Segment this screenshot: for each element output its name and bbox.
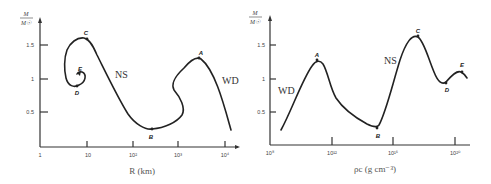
- right-xtick-1e12: 10¹²: [327, 150, 337, 156]
- right-ytick-1: 1: [262, 76, 265, 82]
- figure: M M☉ 1.5 1 0.5 1 10 10² 10³ 10⁴ R (km) A…: [0, 0, 491, 184]
- left-ytick-1: 1: [31, 76, 34, 82]
- left-xtick-10000: 10⁴: [221, 152, 230, 158]
- left-mass-radius-curve: [65, 38, 231, 130]
- right-ytick-1-5: 1.5: [257, 42, 265, 48]
- left-point-c: C: [84, 30, 89, 36]
- left-label-wd: WD: [222, 75, 239, 86]
- right-plot: M M☉ 1.5 1 0.5 10⁸ 10¹² 10¹⁶ 10²⁰ ρc (g …: [249, 10, 470, 174]
- left-ylabel-den: M☉: [20, 20, 32, 26]
- right-label-ns: NS: [384, 55, 397, 66]
- right-xtick-1e20: 10²⁰: [450, 150, 461, 156]
- right-y-arrow-icon: [268, 15, 272, 21]
- right-xtick-1e16: 10¹⁶: [388, 150, 398, 156]
- left-xtick-100: 10²: [129, 152, 137, 158]
- right-ylabel-num: M: [252, 10, 259, 16]
- left-xtick-1000: 10³: [174, 152, 182, 158]
- left-ylabel-num: M: [23, 11, 30, 17]
- right-xtick-1e8: 10⁸: [266, 150, 274, 156]
- right-ylabel-den: M☉: [249, 19, 261, 25]
- right-point-e: E: [460, 62, 465, 68]
- right-mass-density-curve: [281, 36, 467, 130]
- left-label-ns: NS: [115, 69, 128, 80]
- left-ytick-0-5: 0.5: [26, 109, 34, 115]
- left-point-e: E: [78, 66, 83, 72]
- right-point-a: A: [314, 52, 319, 58]
- right-label-wd: WD: [278, 85, 295, 96]
- left-point-a: A: [198, 50, 203, 56]
- left-point-b: B: [149, 134, 154, 140]
- right-point-b: B: [376, 133, 381, 139]
- right-point-c: C: [416, 28, 421, 34]
- right-ytick-0-5: 0.5: [257, 109, 265, 115]
- left-point-d: D: [75, 90, 80, 96]
- right-point-d: D: [445, 87, 450, 93]
- left-plot: M M☉ 1.5 1 0.5 1 10 10² 10³ 10⁴ R (km) A…: [20, 11, 240, 176]
- left-xtick-1: 1: [38, 152, 41, 158]
- left-ytick-1-5: 1.5: [26, 42, 34, 48]
- left-x-arrow-icon: [235, 145, 240, 149]
- right-xlabel: ρc (g cm⁻³): [354, 164, 396, 174]
- left-y-arrow-icon: [38, 17, 42, 23]
- left-xtick-10: 10: [85, 152, 91, 158]
- left-xlabel: R (km): [129, 166, 155, 176]
